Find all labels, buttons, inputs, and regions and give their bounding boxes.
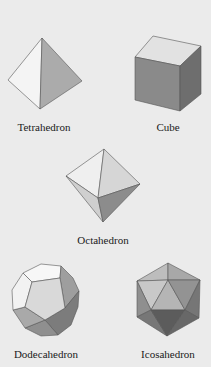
cube-face	[135, 57, 180, 111]
cube-shape	[135, 36, 201, 111]
platonic-solids-figure: Tetrahedron Cube Octahedron Dodecahedron…	[0, 0, 211, 367]
icosahedron-shape	[137, 263, 200, 336]
label-tetrahedron: Tetrahedron	[18, 121, 71, 133]
tetrahedron-face	[8, 38, 42, 109]
label-octahedron: Octahedron	[77, 234, 128, 246]
icosahedron-face	[168, 263, 200, 280]
label-dodecahedron: Dodecahedron	[14, 348, 78, 360]
tetrahedron-face	[40, 38, 82, 109]
dodecahedron-shape	[12, 264, 79, 336]
tetrahedron-shape	[8, 38, 82, 109]
solids-canvas	[0, 0, 211, 367]
label-icosahedron: Icosahedron	[141, 348, 195, 360]
octahedron-shape	[66, 149, 140, 222]
label-cube: Cube	[156, 121, 179, 133]
icosahedron-face	[137, 263, 168, 281]
